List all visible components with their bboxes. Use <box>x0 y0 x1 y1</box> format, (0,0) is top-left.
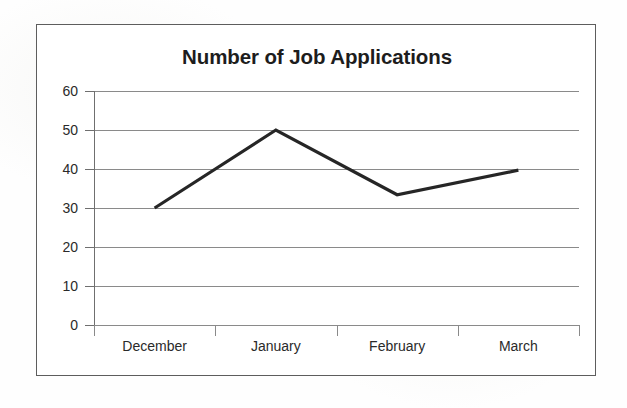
gridline-y-60 <box>94 91 579 92</box>
y-axis-label-20: 20 <box>44 240 78 254</box>
y-axis-label-40: 40 <box>44 162 78 176</box>
y-axis-tick-20 <box>85 247 94 248</box>
y-axis-label-60: 60 <box>44 84 78 98</box>
gridline-y-10 <box>94 286 579 287</box>
chart-title: Number of Job Applications <box>37 45 597 69</box>
gridline-y-20 <box>94 247 579 248</box>
y-axis-tick-30 <box>85 208 94 209</box>
x-axis-tick-3 <box>458 325 459 336</box>
y-axis-tick-10 <box>85 286 94 287</box>
plot-area <box>94 91 579 325</box>
y-axis-line <box>94 91 95 326</box>
x-axis-tick-4 <box>579 325 580 336</box>
y-axis-label-50: 50 <box>44 123 78 137</box>
y-axis-label-0: 0 <box>44 318 78 332</box>
gridline-y-40 <box>94 169 579 170</box>
y-axis-tick-60 <box>85 91 94 92</box>
y-axis-tick-0 <box>85 325 94 326</box>
x-axis-label-january: January <box>215 339 336 353</box>
gridline-y-30 <box>94 208 579 209</box>
x-axis-label-december: December <box>94 339 215 353</box>
x-axis-tick-0 <box>94 325 95 336</box>
x-axis-label-february: February <box>337 339 458 353</box>
y-axis-tick-50 <box>85 130 94 131</box>
y-axis-tick-40 <box>85 169 94 170</box>
y-axis-label-30: 30 <box>44 201 78 215</box>
gridline-y-50 <box>94 130 579 131</box>
y-axis-label-10: 10 <box>44 279 78 293</box>
chart-frame: Number of Job Applications 0102030405060… <box>36 24 596 376</box>
x-axis-tick-1 <box>215 325 216 336</box>
x-axis-tick-2 <box>337 325 338 336</box>
x-axis-label-march: March <box>458 339 579 353</box>
